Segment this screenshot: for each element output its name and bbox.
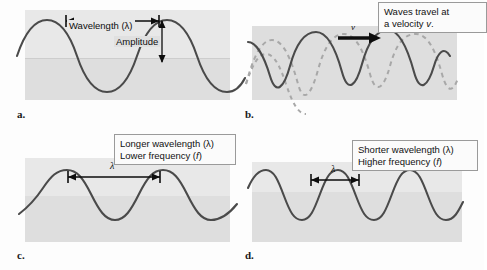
panel-d-lambda-symbol: λ xyxy=(331,163,335,174)
panel-b-velocity-arrow xyxy=(337,32,383,44)
panel-c-callout: Longer wavelength (λ) Lower frequency (f… xyxy=(114,134,236,165)
panel-b-letter: b. xyxy=(245,108,254,120)
panel-b-callout-line1: Waves travel at xyxy=(384,6,481,18)
panel-b-callout: Waves travel at a velocity v. xyxy=(378,2,487,33)
panel-c-wavelength-measure xyxy=(63,170,165,184)
panel-c-callout-line2-pre: Lower frequency ( xyxy=(120,150,196,161)
panel-b-callout-line2: a velocity v. xyxy=(384,18,481,30)
panel-b-callout-line2-post: . xyxy=(431,18,434,29)
panel-d-callout-line1: Shorter wavelength (λ) xyxy=(358,144,472,156)
wavelength-label: Wavelength (λ) xyxy=(67,20,135,31)
panel-d-callout-line2-post: ) xyxy=(439,156,442,167)
panel-d-callout-line2-pre: Higher frequency ( xyxy=(358,156,436,167)
velocity-symbol: v xyxy=(351,22,355,32)
panel-b-callout-line2-pre: a velocity xyxy=(384,18,426,29)
panel-d-letter: d. xyxy=(245,249,254,261)
amplitude-label: Amplitude xyxy=(114,36,160,47)
panel-d-wavelength-measure xyxy=(306,173,364,187)
panel-c-letter: c. xyxy=(17,249,25,261)
panel-c-callout-line2-post: ) xyxy=(199,150,202,161)
panel-d-callout-line2: Higher frequency (f) xyxy=(358,156,472,168)
panel-a-letter: a. xyxy=(17,108,25,120)
panel-c-callout-line2: Lower frequency (f) xyxy=(120,150,230,162)
panel-d-callout: Shorter wavelength (λ) Higher frequency … xyxy=(352,140,478,171)
panel-c-callout-line1: Longer wavelength (λ) xyxy=(120,138,230,150)
